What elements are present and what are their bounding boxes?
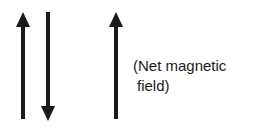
label-line-1: (Net magnetic: [133, 56, 226, 76]
net-magnetic-field-label: (Net magnetic field): [133, 56, 226, 96]
net-field-up-arrow-icon: [109, 12, 123, 119]
up-arrow-icon: [16, 12, 30, 119]
down-arrow-icon: [41, 12, 55, 121]
label-line-2: field): [133, 76, 226, 96]
